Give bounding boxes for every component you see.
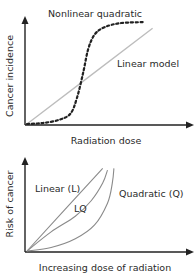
bottom-y-axis-arrow-icon [22, 157, 29, 165]
series-line-quadratic-q [27, 168, 114, 251]
top-x-axis-label: Radiation dose [71, 135, 142, 146]
quadratic-q-label: Quadratic (Q) [119, 188, 184, 199]
top-series-group [27, 22, 153, 124]
charts-figure: Nonlinear quadratic Linear model Radiati… [0, 0, 196, 274]
top-x-axis-arrow-icon [186, 122, 194, 129]
bottom-chart: Linear (L) LQ Quadratic (Q) Increasing d… [4, 157, 194, 273]
series-line-nonlinear-quadratic [27, 22, 143, 124]
linear-model-label: Linear model [117, 58, 179, 69]
lq-label: LQ [74, 203, 87, 214]
bottom-x-axis-arrow-icon [186, 249, 194, 256]
series-line-linear-l [27, 168, 103, 251]
top-chart: Nonlinear quadratic Linear model Radiati… [4, 8, 194, 146]
top-chart-title: Nonlinear quadratic [48, 8, 142, 19]
bottom-series-group [27, 168, 114, 251]
linear-l-label: Linear (L) [35, 183, 80, 194]
bottom-x-axis-label: Increasing dose of radiation [39, 262, 171, 273]
bottom-y-axis-label: Risk of cancer [4, 170, 15, 237]
top-y-axis-arrow-icon [22, 16, 29, 24]
top-y-axis-label: Cancer incidence [4, 35, 15, 117]
